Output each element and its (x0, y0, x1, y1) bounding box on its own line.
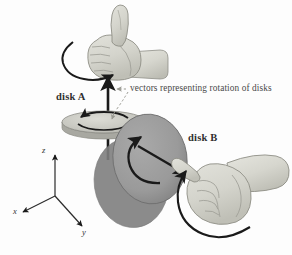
hand-b (172, 155, 290, 224)
axis-label-z: z (42, 146, 45, 155)
disk-b-label: disk B (188, 133, 218, 144)
physics-figure: disk A disk B vectors representing rotat… (0, 0, 292, 255)
axis-label-y: y (82, 228, 86, 237)
axis-x-line (23, 196, 55, 212)
rotation-vectors-caption: vectors representing rotation of disks (130, 84, 272, 93)
hand-a (88, 5, 168, 80)
figure-canvas (0, 0, 292, 255)
axis-y-line (55, 196, 82, 226)
axis-triad (23, 155, 82, 226)
axis-label-x: x (13, 207, 17, 216)
disk-a-label: disk A (56, 92, 86, 103)
